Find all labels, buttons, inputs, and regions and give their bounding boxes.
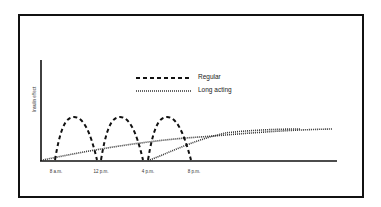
series-regular-peak-2 [101,117,143,160]
x-tick-label: 8 p.m. [188,169,201,174]
y-axis-label: Insulin effect [32,87,37,112]
x-tick-label: 8 a.m. [50,169,63,174]
plot-area [0,0,381,207]
series-regular-peak-1 [55,117,97,160]
series-regular-peak-3 [148,117,191,160]
x-tick-label: 12 p.m. [93,169,108,174]
legend-label-regular: Regular [198,73,221,80]
legend-label-long-acting: Long acting [198,86,232,93]
x-tick-label: 4 p.m. [142,169,155,174]
series-long-acting-2 [150,129,300,160]
